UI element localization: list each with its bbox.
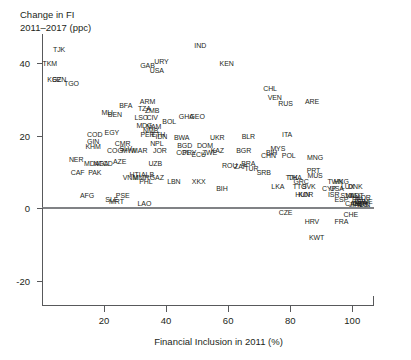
y-tick: 0 xyxy=(37,208,43,209)
x-tick-label: 20 xyxy=(99,315,110,326)
data-point-label: PAK xyxy=(88,168,101,175)
data-point-label: TKM xyxy=(43,60,57,67)
data-point-label: IDN xyxy=(156,132,168,139)
data-point-label: MRT xyxy=(109,197,124,204)
x-tick xyxy=(352,306,353,312)
data-point-label: EGY xyxy=(105,128,119,135)
data-point-label: NER xyxy=(69,156,83,163)
y-tick-label: 0 xyxy=(25,203,30,214)
data-point-label: NPL xyxy=(150,139,163,146)
data-point-label: XKX xyxy=(192,177,206,184)
data-point-label: CHN xyxy=(261,152,276,159)
y-axis-line xyxy=(42,34,43,306)
data-point-label: CZE xyxy=(279,208,293,215)
y-tick: -20 xyxy=(37,281,43,282)
x-axis-right-cap xyxy=(373,296,374,306)
data-point-label: CIV xyxy=(146,114,157,121)
data-point-label: SRB xyxy=(257,168,271,175)
data-point-label: BOL xyxy=(162,118,176,125)
data-point-label: ARM xyxy=(140,98,155,105)
x-axis-line xyxy=(42,305,374,306)
data-point-label: JOR xyxy=(153,147,167,154)
x-tick xyxy=(166,306,167,312)
data-point-label: BGR xyxy=(236,147,251,154)
data-point-label: UKR xyxy=(210,134,224,141)
x-tick xyxy=(104,306,105,312)
data-point-label: ITA xyxy=(282,130,292,137)
x-tick xyxy=(228,306,229,312)
data-point-label: CAF xyxy=(71,168,85,175)
data-point-label: SVK xyxy=(302,183,316,190)
data-point-label: BGD xyxy=(177,141,192,148)
data-point-label: GEO xyxy=(189,112,204,119)
data-point-label: PHL xyxy=(139,177,152,184)
data-point-label: RUS xyxy=(278,99,292,106)
data-point-label: CHE xyxy=(343,210,357,217)
data-point-label: MLI xyxy=(101,108,112,115)
y-tick-label: 40 xyxy=(19,58,30,69)
y-axis-title: Change in FI 2011–2017 (ppc) xyxy=(20,8,91,34)
y-tick-label: -20 xyxy=(16,275,30,286)
y-axis-title-line2: 2011–2017 (ppc) xyxy=(20,22,91,33)
data-point-label: KAZ xyxy=(211,147,224,154)
data-point-label: LBN xyxy=(167,177,180,184)
data-point-label: MNG xyxy=(307,154,323,161)
data-point-label: BWA xyxy=(174,134,189,141)
data-point-label: MUS xyxy=(307,172,322,179)
data-point-label: JPN xyxy=(349,201,362,208)
data-point-label: URY xyxy=(154,58,168,65)
x-tick-label: 100 xyxy=(344,315,360,326)
y-tick: 20 xyxy=(37,136,43,137)
data-point-label: ZMB xyxy=(145,107,159,114)
data-point-label: TCD xyxy=(99,159,113,166)
y-tick-label: 20 xyxy=(19,130,30,141)
data-point-label: MAR xyxy=(132,147,147,154)
data-point-label: SLV xyxy=(120,145,132,152)
data-point-label: COD xyxy=(87,130,102,137)
scatter-plot-figure: Change in FI 2011–2017 (ppc) 40200-20 20… xyxy=(0,0,411,360)
data-point-label: IND xyxy=(194,41,206,48)
data-point-label: KOR xyxy=(298,190,313,197)
data-point-label: POL xyxy=(282,152,296,159)
data-point-label: ARE xyxy=(305,98,319,105)
data-point-label: UZB xyxy=(148,159,162,166)
data-point-label: TGO xyxy=(64,79,79,86)
x-tick-label: 40 xyxy=(161,315,172,326)
x-axis-title-text: Financial Inclusion in 2011 (%) xyxy=(154,336,283,347)
plot-area: 40200-20 20406080100 TJKTKMKGZSENTGOGABU… xyxy=(42,34,374,306)
data-point-label: BLR xyxy=(242,132,255,139)
data-point-label: LAO xyxy=(138,199,152,206)
x-tick-label: 80 xyxy=(285,315,296,326)
y-axis-title-line1: Change in FI xyxy=(20,9,74,20)
data-point-label: HRV xyxy=(305,217,319,224)
data-point-label: AZE xyxy=(113,157,126,164)
data-point-label: BIH xyxy=(216,185,227,192)
data-point-label: DNK xyxy=(348,183,362,190)
data-point-label: AFG xyxy=(80,192,94,199)
zero-reference-line xyxy=(42,207,374,209)
data-point-label: LKA xyxy=(271,183,284,190)
data-point-label: KWT xyxy=(309,234,324,241)
data-point-label: KHM xyxy=(86,143,101,150)
data-point-label: CHL xyxy=(263,85,277,92)
data-point-label: TJK xyxy=(53,45,65,52)
data-point-label: KEN xyxy=(220,60,234,67)
x-tick-label: 60 xyxy=(223,315,234,326)
x-tick xyxy=(290,306,291,312)
data-point-label: BFA xyxy=(119,101,132,108)
x-axis-title: Financial Inclusion in 2011 (%) xyxy=(0,336,411,347)
data-point-label: FRA xyxy=(335,217,349,224)
data-point-label: USA xyxy=(150,67,164,74)
